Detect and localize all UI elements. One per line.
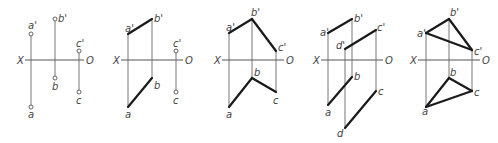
- point-label: a: [28, 109, 34, 120]
- axis-label-o: O: [385, 55, 393, 66]
- point-label: a: [325, 107, 331, 118]
- edge-line: [345, 30, 376, 49]
- point-label: a': [28, 20, 37, 31]
- point-label: c: [76, 95, 82, 106]
- edge-line: [328, 19, 352, 33]
- edge-line: [426, 19, 449, 33]
- point-marker-icon: [174, 49, 178, 53]
- axis-label-x: X: [409, 55, 418, 66]
- point-marker-icon: [53, 17, 57, 21]
- point-label: b': [251, 7, 260, 18]
- point-marker-icon: [77, 49, 81, 53]
- edge-line: [345, 91, 376, 128]
- point-label: d': [336, 40, 345, 51]
- point-marker-icon: [29, 32, 33, 36]
- edge-line: [128, 78, 152, 107]
- point-label: a': [417, 28, 426, 39]
- point-label: c: [474, 87, 480, 98]
- point-label: b: [154, 80, 160, 91]
- point-label: a: [125, 109, 131, 120]
- axis-label-x: X: [213, 55, 222, 66]
- point-label: c': [173, 38, 181, 49]
- projection-diagram: XOa'b'c'abcXOa'b'c'abcXOa'b'c'abcXOa'b'c…: [0, 0, 498, 143]
- axis-label-x: X: [312, 55, 321, 66]
- point-label: a: [226, 109, 232, 120]
- panel-1: XOa'b'c'abc: [16, 13, 94, 120]
- panels-group: XOa'b'c'abcXOa'b'c'abcXOa'b'c'abcXOa'b'c…: [16, 7, 490, 139]
- point-label: b': [450, 7, 459, 18]
- point-label: d: [337, 128, 344, 139]
- point-label: c': [474, 46, 482, 57]
- axis-label-o: O: [86, 55, 94, 66]
- point-label: b': [154, 13, 163, 24]
- point-label: b: [254, 67, 260, 78]
- point-label: c': [377, 22, 385, 33]
- edge-line: [449, 78, 472, 91]
- point-label: b': [354, 13, 363, 24]
- axis-label-o: O: [286, 55, 294, 66]
- point-label: b: [52, 81, 58, 92]
- point-marker-icon: [53, 76, 57, 80]
- edge-line: [252, 19, 276, 51]
- point-label: c': [278, 42, 286, 53]
- axis-label-o: O: [482, 55, 490, 66]
- panel-4: XOa'b'c'd'abcd: [312, 13, 393, 139]
- axis-label-x: X: [16, 55, 25, 66]
- edge-line: [328, 77, 352, 105]
- point-label: a': [125, 23, 134, 34]
- point-marker-icon: [77, 90, 81, 94]
- point-label: a': [226, 22, 235, 33]
- point-label: b': [58, 13, 67, 24]
- axis-label-x: X: [112, 55, 121, 66]
- point-label: b: [450, 67, 456, 78]
- panel-3: XOa'b'c'abc: [213, 7, 294, 120]
- panel-5: XOa'b'c'abc: [409, 7, 490, 117]
- point-marker-icon: [174, 90, 178, 94]
- edge-line: [229, 78, 252, 107]
- axis-label-o: O: [185, 55, 193, 66]
- point-label: c: [273, 95, 279, 106]
- point-label: a': [320, 27, 329, 38]
- point-label: c: [378, 86, 384, 97]
- point-label: b: [354, 71, 360, 82]
- point-label: c: [173, 95, 179, 106]
- point-label: a: [422, 106, 428, 117]
- point-label: c': [76, 38, 84, 49]
- edge-line: [252, 78, 276, 92]
- panel-2: XOa'b'c'abc: [112, 13, 193, 120]
